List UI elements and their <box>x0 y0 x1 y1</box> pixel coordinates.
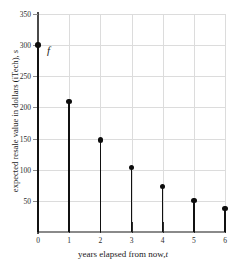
resale-value-stem-chart: 350 300 250 200 150 100 50 0 1 2 3 4 5 6… <box>0 0 246 266</box>
stem-line <box>131 167 133 232</box>
data-point <box>191 198 196 203</box>
x-tick-label: 3 <box>125 236 139 245</box>
y-axis-title-variable: s <box>10 50 20 53</box>
y-axis-title-text: expected resale value in dollars (iTech)… <box>10 55 20 192</box>
stem-line <box>224 208 226 232</box>
x-tick-label: 2 <box>93 236 107 245</box>
stem-line <box>68 101 70 232</box>
stem-line <box>162 187 164 232</box>
x-tick-label: 6 <box>218 236 232 245</box>
data-point <box>35 42 40 47</box>
x-tick-label: 0 <box>31 236 45 245</box>
y-axis-title: expected resale value in dollars (iTech)… <box>10 10 20 232</box>
stem-line <box>100 140 102 232</box>
x-tick-label: 5 <box>187 236 201 245</box>
stem-line <box>193 200 195 232</box>
data-point <box>98 137 103 142</box>
data-point <box>129 165 134 170</box>
x-tick-label: 4 <box>156 236 170 245</box>
function-label-f: f <box>47 44 50 56</box>
stem-line <box>37 45 39 232</box>
x-axis-title-variable: t <box>165 249 168 259</box>
x-axis-title-text: years elapsed from now, <box>78 249 165 259</box>
data-point <box>66 99 71 104</box>
data-point <box>222 206 227 211</box>
x-axis-title: years elapsed from now,t <box>0 249 246 259</box>
x-tick-label: 1 <box>62 236 76 245</box>
